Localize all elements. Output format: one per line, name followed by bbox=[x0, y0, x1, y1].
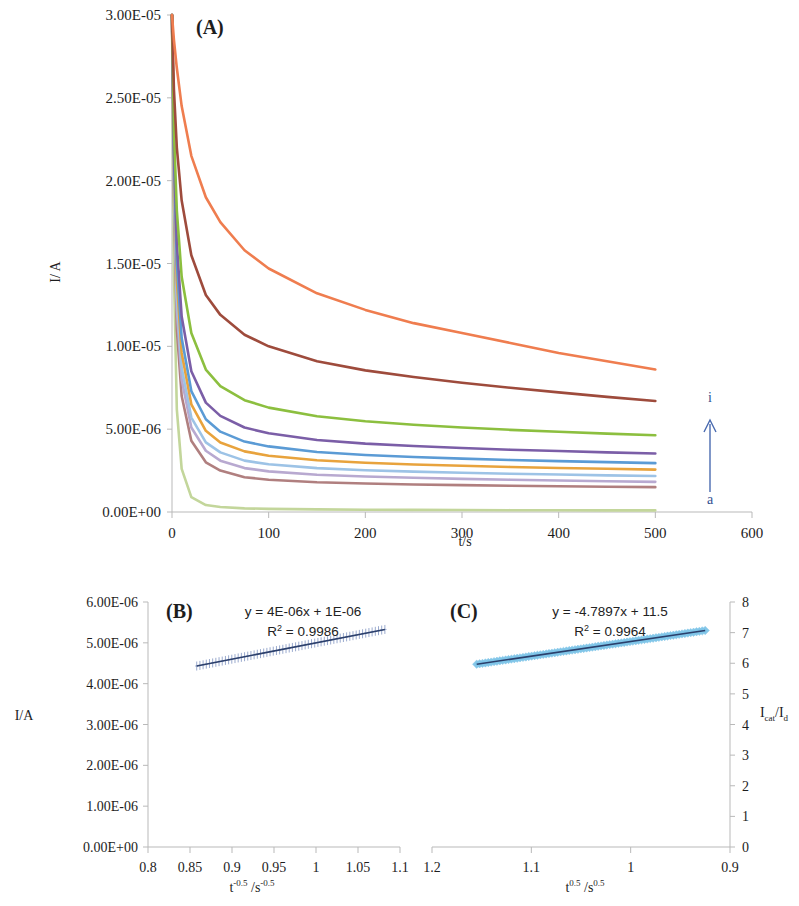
panel-c-label: (C) bbox=[450, 600, 478, 623]
panel-c-y-tick-label: 2 bbox=[742, 779, 749, 794]
arrow-top-label: i bbox=[708, 390, 712, 405]
panel-b-x-tick-label: 0.85 bbox=[178, 860, 203, 875]
panel-a-x-tick-label: 500 bbox=[644, 525, 667, 541]
panel-b-equation: y = 4E-06x + 1E-06 bbox=[245, 604, 361, 619]
panel-a-curve-i-brown bbox=[172, 15, 655, 401]
panel-a-curve-a bbox=[172, 15, 655, 510]
panel-c-y-axis-title: Icat/Id bbox=[760, 705, 789, 723]
panel-b-x-tick-label: 0.9 bbox=[223, 860, 241, 875]
panel-c-y-tick-label: 6 bbox=[742, 656, 749, 671]
panel-a-curve-d bbox=[172, 15, 655, 476]
panel-a-label: (A) bbox=[196, 16, 224, 39]
panel-a-x-tick-label: 200 bbox=[354, 525, 377, 541]
panel-a-x-tick-label: 0 bbox=[168, 525, 176, 541]
panel-c-x-tick-label: 1 bbox=[627, 860, 634, 875]
panel-c-y-tick-label: 5 bbox=[742, 687, 749, 702]
panel-a-y-tick-label: 1.50E-05 bbox=[106, 256, 161, 272]
arrow-bottom-label: a bbox=[707, 492, 714, 507]
panel-a-y-axis-title: I/ A bbox=[48, 260, 63, 282]
figure-container: 0.00E+005.00E-061.00E-051.50E-052.00E-05… bbox=[0, 0, 799, 906]
panel-a-y-tick-label: 0.00E+00 bbox=[102, 504, 161, 520]
panel-c-y-tick-label: 0 bbox=[742, 840, 749, 855]
panel-c-y-tick-label: 7 bbox=[742, 626, 749, 641]
panel-a-curve-g bbox=[172, 15, 655, 454]
panel-c-y-tick-label: 8 bbox=[742, 595, 749, 610]
panel-b-x-axis-title: t-0.5 /s-0.5 bbox=[229, 878, 275, 895]
panel-c-x-tick-label: 0.9 bbox=[721, 860, 739, 875]
panel-a-curve-h bbox=[172, 15, 655, 435]
panel-b-y-tick-label: 2.00E-06 bbox=[86, 758, 138, 773]
panel-b-y-tick-label: 1.00E-06 bbox=[86, 799, 138, 814]
panel-c-chart: 0123456781.21.110.9(C)y = -4.7897x + 11.… bbox=[400, 580, 799, 906]
panel-a-y-tick-label: 3.00E-05 bbox=[106, 7, 161, 23]
panel-c-x-tick-label: 1.1 bbox=[523, 860, 541, 875]
panel-a-x-tick-label: 400 bbox=[547, 525, 570, 541]
panel-a-x-tick-label: 100 bbox=[257, 525, 280, 541]
panel-c-y-tick-label: 3 bbox=[742, 748, 749, 763]
panel-c-x-axis-title: t0.5 /s0.5 bbox=[565, 878, 605, 895]
panel-b-x-tick-label: 1 bbox=[313, 860, 320, 875]
panel-b-y-tick-label: 6.00E-06 bbox=[86, 595, 138, 610]
panel-a-y-tick-label: 1.00E-05 bbox=[106, 338, 161, 354]
panel-a-y-tick-label: 5.00E-06 bbox=[106, 421, 162, 437]
panel-a-chart: 0.00E+005.00E-061.00E-051.50E-052.00E-05… bbox=[0, 0, 799, 580]
panel-b-x-tick-label: 0.8 bbox=[139, 860, 157, 875]
panel-b-y-tick-label: 5.00E-06 bbox=[86, 636, 138, 651]
panel-b-y-axis-title: I/A bbox=[15, 708, 35, 723]
panel-b-label: (B) bbox=[166, 600, 193, 623]
panel-c-y-tick-label: 4 bbox=[742, 718, 749, 733]
panel-a-x-tick-label: 600 bbox=[741, 525, 764, 541]
panel-b-chart: 0.00E+001.00E-062.00E-063.00E-064.00E-06… bbox=[0, 580, 420, 906]
panel-c-y-tick-label: 1 bbox=[742, 809, 749, 824]
panel-a-y-tick-label: 2.00E-05 bbox=[106, 173, 161, 189]
panel-b-y-tick-label: 4.00E-06 bbox=[86, 677, 138, 692]
panel-b-r-squared: R2 = 0.9986 bbox=[267, 623, 338, 639]
panel-c-r-squared: R2 = 0.9964 bbox=[574, 623, 646, 639]
panel-b-y-tick-label: 0.00E+00 bbox=[83, 840, 138, 855]
panel-b-x-tick-label: 0.95 bbox=[262, 860, 287, 875]
panel-b-y-tick-label: 3.00E-06 bbox=[86, 718, 138, 733]
panel-c-equation: y = -4.7897x + 11.5 bbox=[552, 604, 667, 619]
panel-a-curve-i bbox=[172, 15, 655, 370]
panel-c-x-tick-label: 1.2 bbox=[423, 860, 441, 875]
panel-b-x-tick-label: 1.05 bbox=[346, 860, 371, 875]
panel-a-x-axis-title: t/s bbox=[458, 534, 471, 549]
panel-a-y-tick-label: 2.50E-05 bbox=[106, 90, 161, 106]
